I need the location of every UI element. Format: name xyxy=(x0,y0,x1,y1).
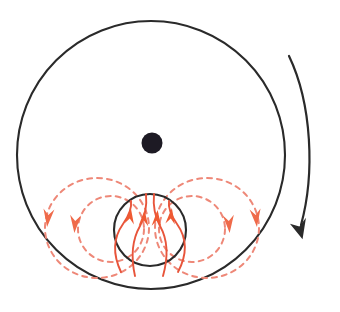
core-center-dot-group xyxy=(142,133,163,154)
dashed-field-loops-group xyxy=(45,178,259,278)
rotation-arrow-shaft xyxy=(289,56,309,225)
loop-arrowhead-outer-left xyxy=(42,208,55,227)
diagram-canvas xyxy=(0,0,340,312)
outer-body-circle xyxy=(17,21,285,289)
loop-arrowheads-group xyxy=(42,208,263,233)
field-line-1 xyxy=(115,201,131,272)
dashed-loop-outer-right xyxy=(155,178,259,278)
solid-field-arrowheads-group xyxy=(124,208,176,227)
loop-arrowhead-inner-left xyxy=(69,215,81,234)
rotation-direction-arrow xyxy=(289,56,311,241)
dashed-loop-inner-left xyxy=(78,196,144,262)
rotation-arrow-head xyxy=(289,218,310,242)
solid-field-lines-group xyxy=(115,194,184,276)
field-arrowhead-1 xyxy=(124,208,135,225)
inner-field-region-group xyxy=(114,194,186,266)
outer-body-group xyxy=(17,21,285,289)
figure-root xyxy=(0,0,340,312)
inner-field-region-circle xyxy=(114,194,186,266)
core-center-dot xyxy=(142,133,163,154)
